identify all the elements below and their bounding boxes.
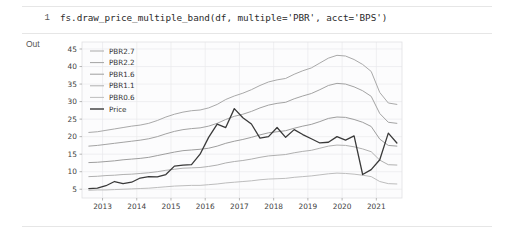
y-axis-tick-label: 45 xyxy=(68,45,78,54)
x-axis-tick-label: 2013 xyxy=(93,202,112,211)
y-axis-tick-label: 10 xyxy=(68,167,78,176)
legend-label-price: Price xyxy=(109,105,127,114)
legend-label-pbr0.6: PBR0.6 xyxy=(109,93,135,102)
x-axis-tick-label: 2021 xyxy=(367,202,386,211)
legend-label-pbr1.6: PBR1.6 xyxy=(109,70,135,79)
y-axis-tick-label: 20 xyxy=(68,132,78,141)
notebook-cell: 1 fs.draw_price_multiple_band(df, multip… xyxy=(0,0,510,237)
x-axis-tick-label: 2018 xyxy=(264,202,283,211)
y-axis-tick-label: 30 xyxy=(68,97,78,106)
cell-divider-middle xyxy=(22,33,492,34)
legend-label-pbr2.7: PBR2.7 xyxy=(109,47,135,56)
y-axis-tick-label: 5 xyxy=(72,185,77,194)
output-prompt-label: Out xyxy=(26,39,40,49)
chart-svg: 5101520253035404520132014201520162017201… xyxy=(56,38,406,218)
x-axis-tick-label: 2019 xyxy=(298,202,317,211)
cell-divider-bottom xyxy=(22,226,492,227)
y-axis-tick-label: 40 xyxy=(68,62,78,71)
price-multiple-band-chart: 5101520253035404520132014201520162017201… xyxy=(56,38,406,218)
x-axis-tick-label: 2014 xyxy=(127,202,146,211)
y-axis-tick-label: 35 xyxy=(68,80,78,89)
x-axis-tick-label: 2020 xyxy=(333,202,352,211)
legend-label-pbr1.1: PBR1.1 xyxy=(109,81,135,90)
x-axis-tick-label: 2016 xyxy=(196,202,215,211)
code-input-text[interactable]: fs.draw_price_multiple_band(df, multiple… xyxy=(60,12,387,23)
legend-label-pbr2.2: PBR2.2 xyxy=(109,58,135,67)
code-input-row[interactable]: 1 fs.draw_price_multiple_band(df, multip… xyxy=(0,7,510,33)
input-prompt-number: 1 xyxy=(28,13,50,23)
y-axis-tick-label: 15 xyxy=(68,150,78,159)
y-axis-tick-label: 25 xyxy=(68,115,78,124)
x-axis-tick-label: 2017 xyxy=(230,202,249,211)
x-axis-tick-label: 2015 xyxy=(162,202,181,211)
